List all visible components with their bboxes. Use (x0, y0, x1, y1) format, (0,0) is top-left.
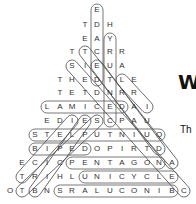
grid-letter[interactable]: E (107, 103, 112, 111)
grid-letter[interactable]: E (94, 62, 99, 70)
grid-letter[interactable]: I (84, 62, 86, 70)
grid-letter[interactable]: L (95, 187, 99, 195)
grid-letter[interactable]: G (131, 159, 137, 167)
grid-letter[interactable]: O (131, 187, 137, 195)
grid-letter[interactable]: D (94, 89, 100, 97)
grid-letter[interactable]: U (94, 131, 100, 139)
grid-letter[interactable]: U (107, 187, 113, 195)
grid-letter[interactable]: L (70, 131, 74, 139)
grid-letter[interactable]: L (120, 76, 124, 84)
grid-letter[interactable]: C (57, 159, 63, 167)
grid-letter[interactable]: L (45, 103, 49, 111)
grid-letter[interactable]: N (107, 89, 113, 97)
grid-letter[interactable]: E (131, 76, 136, 84)
grid-letter[interactable]: I (71, 117, 73, 125)
grid-letter[interactable]: P (119, 117, 124, 125)
grid-letter[interactable]: O (144, 159, 150, 167)
grid-letter[interactable]: T (108, 159, 113, 167)
grid-letter[interactable]: I (121, 145, 123, 153)
grid-letter[interactable]: C (32, 159, 38, 167)
grid-letter[interactable]: E (82, 76, 87, 84)
grid-letter[interactable]: T (70, 48, 75, 56)
grid-letter[interactable]: N (94, 159, 100, 167)
grid-letter[interactable]: U (144, 117, 150, 125)
grid-letter[interactable]: I (46, 145, 48, 153)
grid-letter[interactable]: H (107, 21, 113, 29)
grid-letter[interactable]: D (94, 21, 100, 29)
grid-letter[interactable]: E (82, 117, 87, 125)
grid-letter[interactable]: S (94, 117, 99, 125)
grid-letter[interactable]: B (169, 187, 174, 195)
grid-letter[interactable]: N (144, 187, 150, 195)
grid-letter[interactable]: L (157, 173, 161, 181)
grid-letter[interactable]: C (119, 187, 125, 195)
grid-letter[interactable]: D (82, 145, 88, 153)
grid-letter[interactable]: A (119, 159, 124, 167)
grid-letter[interactable]: S (69, 62, 74, 70)
grid-letter[interactable]: E (19, 159, 24, 167)
grid-letter[interactable]: A (169, 159, 174, 167)
grid-letter[interactable]: I (158, 187, 160, 195)
grid-letter[interactable]: N (94, 173, 100, 181)
grid-letter[interactable]: C (144, 173, 150, 181)
grid-letter[interactable]: U (82, 173, 88, 181)
grid-letter[interactable]: T (83, 21, 88, 29)
grid-letter[interactable]: P (107, 145, 112, 153)
grid-letter[interactable]: I (84, 103, 86, 111)
grid-letter[interactable]: C (94, 48, 100, 56)
grid-letter[interactable]: A (131, 117, 136, 125)
grid-letter[interactable]: I (109, 173, 111, 181)
grid-letter[interactable]: E (169, 173, 174, 181)
grid-letter[interactable]: T (20, 173, 25, 181)
grid-letter[interactable]: R (131, 89, 137, 97)
grid-letter[interactable]: A (119, 62, 124, 70)
grid-letter[interactable]: H (69, 76, 75, 84)
grid-letter[interactable]: D (156, 145, 162, 153)
grid-letter[interactable]: T (108, 76, 113, 84)
grid-letter[interactable]: N (119, 131, 125, 139)
grid-letter[interactable]: D (94, 76, 100, 84)
grid-letter[interactable]: C (119, 173, 125, 181)
grid-letter[interactable]: D (57, 117, 63, 125)
grid-letter[interactable]: S (32, 131, 37, 139)
grid-letter[interactable]: T (45, 131, 50, 139)
grid-letter[interactable]: I (133, 131, 135, 139)
grid-letter[interactable]: L (70, 173, 74, 181)
grid-letter[interactable]: N (44, 187, 50, 195)
grid-letter[interactable]: O (7, 187, 13, 195)
grid-letter[interactable]: E (69, 145, 74, 153)
grid-letter[interactable]: R (69, 187, 75, 195)
grid-letter[interactable]: C (181, 187, 187, 195)
grid-letter[interactable]: T (58, 89, 63, 97)
grid-letter[interactable]: I (146, 103, 148, 111)
grid-letter[interactable]: B (32, 187, 37, 195)
grid-letter[interactable]: U (144, 131, 150, 139)
grid-letter[interactable]: E (94, 6, 99, 14)
grid-letter[interactable]: A (57, 103, 62, 111)
grid-letter[interactable]: M (69, 103, 76, 111)
grid-letter[interactable]: C (94, 103, 100, 111)
grid-letter[interactable]: R (107, 48, 113, 56)
grid-letter[interactable]: P (82, 131, 87, 139)
grid-letter[interactable]: P (57, 145, 62, 153)
grid-letter[interactable]: E (82, 159, 87, 167)
grid-letter[interactable]: Q (156, 131, 162, 139)
grid-letter[interactable]: R (131, 145, 137, 153)
grid-letter[interactable]: A (82, 187, 87, 195)
grid-letter[interactable]: E (82, 35, 87, 43)
grid-letter[interactable]: I (46, 173, 48, 181)
grid-letter[interactable]: O (94, 145, 100, 153)
grid-letter[interactable]: C (107, 117, 113, 125)
grid-letter[interactable]: P (69, 159, 74, 167)
grid-letter[interactable]: T (83, 89, 88, 97)
grid-letter[interactable]: T (20, 187, 25, 195)
grid-letter[interactable]: T (145, 145, 150, 153)
grid-letter[interactable]: T (83, 48, 88, 56)
grid-letter[interactable]: I (46, 159, 48, 167)
grid-letter[interactable]: Y (107, 35, 112, 43)
grid-letter[interactable]: A (131, 103, 136, 111)
grid-letter[interactable]: E (44, 117, 49, 125)
grid-letter[interactable]: B (32, 145, 37, 153)
grid-letter[interactable]: T (58, 76, 63, 84)
grid-letter[interactable]: Y (131, 173, 136, 181)
